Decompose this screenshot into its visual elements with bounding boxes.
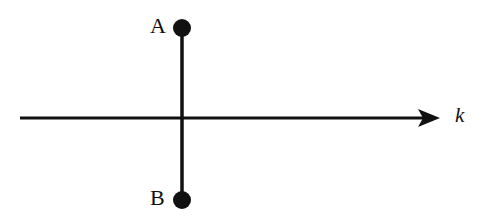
- node-a-dot: [173, 19, 191, 37]
- node-b-dot: [173, 191, 191, 209]
- node-b-label: B: [150, 187, 165, 209]
- figure-canvas: A B k: [0, 0, 485, 216]
- axis-label: k: [455, 105, 464, 126]
- diagram-figure: [0, 0, 485, 216]
- node-a-label: A: [150, 15, 166, 37]
